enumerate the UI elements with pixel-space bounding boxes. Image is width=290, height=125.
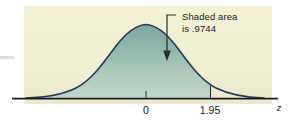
tick-label-zero: 0 [131, 104, 161, 116]
annotation-line-2: is .9744 [182, 23, 282, 35]
shaded-area-annotation: Shaded area is .9744 [182, 11, 282, 34]
annotation-line-1: Shaded area [182, 11, 282, 23]
x-axis-label: z [272, 103, 286, 113]
shaded-area-fill [26, 25, 264, 100]
normal-distribution-figure: Shaded area is .9744 0 1.95 z [0, 0, 290, 125]
tick-label-critical: 1.95 [190, 104, 230, 116]
